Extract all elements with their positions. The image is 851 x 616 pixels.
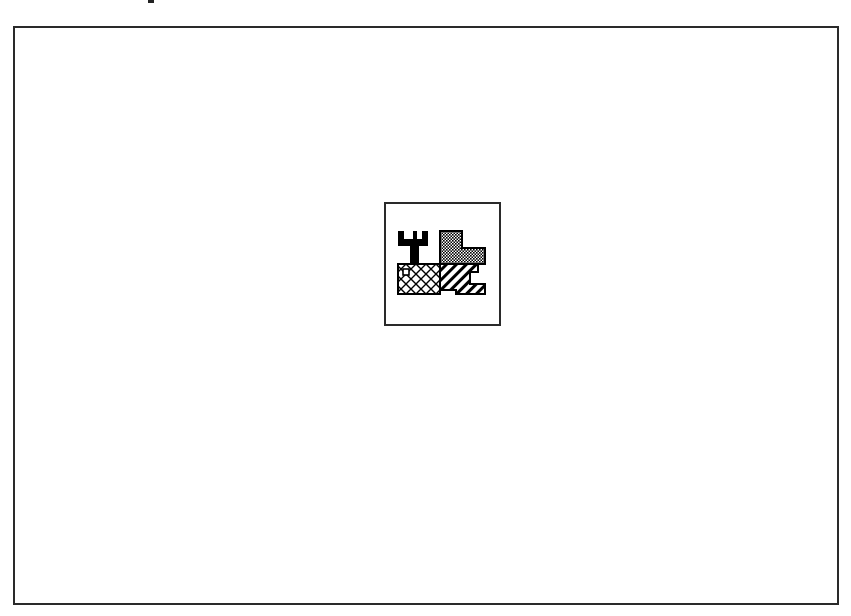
- dotted-region: [440, 231, 485, 264]
- icon-tile[interactable]: [384, 202, 501, 326]
- cropped-glyph-fragment: [148, 0, 154, 3]
- diagonal-hatch-region: [440, 264, 485, 294]
- solid-black-region: [398, 231, 428, 263]
- crosshatch-region: [398, 264, 440, 294]
- map-regions-icon: [386, 204, 499, 324]
